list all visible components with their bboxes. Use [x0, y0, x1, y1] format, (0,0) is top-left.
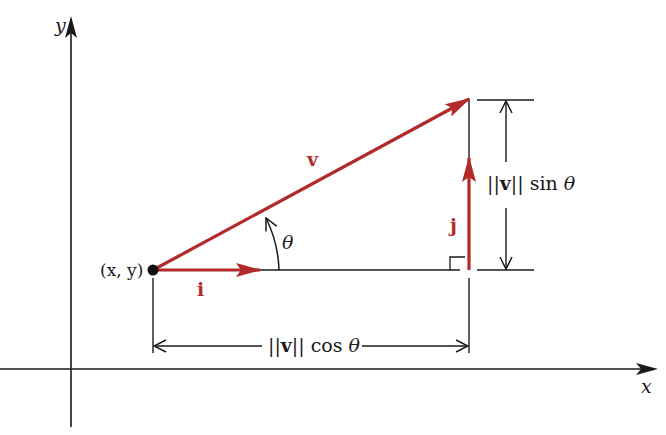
angle-arc	[266, 218, 279, 270]
angle-label: θ	[282, 231, 294, 253]
vertical-dimension-label: ||v||sinθ	[487, 172, 576, 195]
x-axis	[0, 363, 658, 375]
right-angle-marker	[450, 257, 465, 270]
vector-j-label: j	[448, 214, 457, 236]
x-axis-label: x	[641, 375, 652, 397]
horizontal-dimension-label: ||v||cosθ	[268, 334, 361, 357]
vector-v-label: v	[306, 148, 319, 170]
initial-point	[148, 265, 159, 276]
vector-v	[153, 99, 469, 270]
vector-i-label: i	[197, 278, 204, 300]
y-axis	[65, 16, 77, 427]
y-axis-label: y	[54, 14, 66, 36]
vector-components-diagram: y x v i j (x, y) θ ||v||sinθ ||v||cosθ	[0, 0, 666, 435]
point-label: (x, y)	[100, 260, 143, 280]
